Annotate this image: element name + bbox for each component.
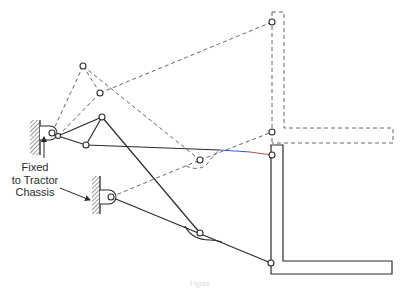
dashed-frame — [272, 12, 393, 143]
frame-pin — [269, 19, 275, 25]
joint-pin — [83, 142, 89, 148]
raised-position — [52, 12, 393, 197]
frame-pin — [269, 129, 275, 135]
frame-pin — [268, 260, 274, 266]
dashed-link — [52, 66, 83, 133]
pivot-pin — [49, 130, 55, 136]
pins — [49, 19, 275, 266]
fixed-chassis-label: Fixed to Tractor Chassis — [4, 161, 66, 199]
joint-pin — [99, 114, 105, 120]
dashed-link — [58, 93, 100, 136]
figure-caption: Figure — [190, 280, 210, 287]
top-link — [86, 145, 220, 150]
label-line-3: Chassis — [4, 186, 66, 199]
pivot-pin — [56, 134, 61, 139]
rocker-pin — [197, 157, 203, 163]
solid-rocker — [185, 226, 222, 242]
joint-pin — [80, 63, 86, 69]
label-line-1: Fixed — [4, 161, 66, 174]
lift-rod — [102, 117, 200, 233]
lower-arm — [111, 197, 271, 263]
diagram-canvas — [0, 0, 406, 292]
dashed-top-link — [100, 22, 272, 93]
label-line-2: to Tractor — [4, 174, 66, 187]
joint-pin — [97, 90, 103, 96]
dashed-link — [83, 66, 100, 93]
dashed-lower-arm — [200, 132, 272, 160]
solid-frame — [271, 145, 392, 274]
rocker-pin — [197, 230, 203, 236]
linkage-diagram: Fixed to Tractor Chassis Figure — [0, 0, 406, 292]
frame-pin — [269, 152, 275, 158]
dashed-lower-arm — [111, 160, 200, 197]
pivot-pin — [108, 194, 114, 200]
